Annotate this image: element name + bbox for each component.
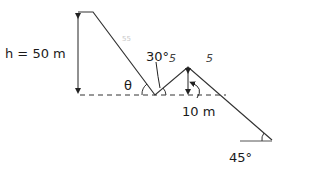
handwritten-note-2: 5 [169,52,176,65]
step-height-pointer [192,83,200,98]
valley-angle-arc [163,88,166,95]
handwritten-note-1: 55 [122,35,131,43]
step-height-label: 10 m [182,104,215,119]
physics-diagram: h = 50 m θ 30° 10 m 45° 55 5 5 [0,0,313,182]
handwritten-note-3: 5 [206,52,213,65]
valley-angle-label: 30° [146,49,169,64]
bottom-angle-arc [262,133,264,141]
valley-angle-pointer [156,62,160,88]
track-profile [78,12,272,140]
theta-arc [142,84,147,95]
theta-label: θ [124,78,132,93]
bottom-angle-label: 45° [229,150,252,165]
height-label: h = 50 m [5,46,66,61]
